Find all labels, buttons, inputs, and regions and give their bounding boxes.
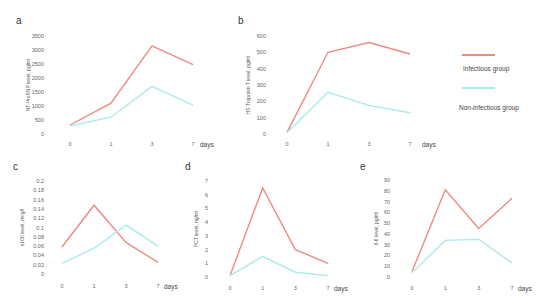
y-tick-label: 0.06 [33, 243, 44, 249]
y-tick-label: 50 [384, 220, 390, 226]
y-tick-label: 1500 [32, 89, 44, 95]
y-tick-label: 500 [257, 49, 266, 55]
x-tick-label: 0 [285, 141, 288, 147]
legend-swatch-non-infectious [462, 87, 495, 89]
infectious-series-line [70, 46, 193, 125]
y-axis-label: PCT level, ng/ml [193, 211, 199, 248]
infectious-series-line [287, 43, 410, 133]
x-tick-label: 3 [477, 285, 480, 291]
panel-letter-a: a [16, 15, 22, 26]
y-tick-label: 6 [205, 192, 208, 198]
y-tick-label: 2000 [32, 75, 44, 81]
x-tick-label: 7 [191, 141, 194, 147]
x-tick-label: 7 [156, 283, 159, 289]
y-tick-label: 0.2 [36, 178, 44, 184]
x-tick-label: 1 [326, 141, 329, 147]
panel-letter-e: e [360, 161, 366, 172]
y-tick-label: 0.18 [33, 187, 44, 193]
x-axis-label: days [200, 141, 214, 149]
y-tick-label: 200 [257, 98, 266, 104]
y-tick-label: 3000 [32, 47, 44, 53]
y-tick-label: 0.1 [36, 225, 44, 231]
y-tick-label: 0.12 [33, 215, 44, 221]
x-tick-label: 0 [228, 285, 231, 291]
non-infectious-series-line [412, 239, 512, 272]
x-tick-label: 3 [367, 141, 370, 147]
legend-label-infectious: Infectious group [463, 65, 509, 72]
y-tick-label: 5 [205, 205, 208, 211]
y-tick-label: 500 [35, 117, 44, 123]
y-tick-label: 0 [41, 131, 44, 137]
y-tick-label: 0.08 [33, 234, 44, 240]
y-tick-label: 0 [387, 274, 390, 280]
panel-letter-c: c [13, 161, 18, 172]
infectious-series-line [62, 205, 158, 262]
y-tick-label: 3500 [32, 33, 44, 39]
y-tick-label: 600 [257, 33, 266, 39]
x-tick-label: 7 [408, 141, 411, 147]
y-tick-label: 30 [384, 242, 390, 248]
x-axis-label: days [518, 285, 532, 293]
x-tick-label: 0 [68, 141, 71, 147]
legend-swatch-infectious [462, 54, 495, 56]
y-tick-label: 60 [384, 209, 390, 215]
y-tick-label: 1000 [32, 103, 44, 109]
x-tick-label: 0 [60, 283, 63, 289]
y-tick-label: 0 [205, 274, 208, 280]
panel-letter-d: d [185, 161, 191, 172]
non-infectious-series-line [230, 256, 328, 275]
y-tick-label: 1 [205, 260, 208, 266]
x-tick-label: 0 [410, 285, 413, 291]
x-tick-label: 3 [150, 141, 153, 147]
infectious-series-line [230, 188, 328, 276]
y-tick-label: 300 [257, 82, 266, 88]
non-infectious-series-line [70, 86, 193, 126]
y-tick-label: 2 [205, 247, 208, 253]
y-axis-label: NT-ProBNP level, pg/ml [25, 59, 31, 112]
panel-letter-b: b [238, 15, 244, 26]
y-tick-label: 2500 [32, 61, 44, 67]
x-axis-label: days [422, 141, 436, 149]
x-tick-label: 1 [92, 283, 95, 289]
y-tick-label: 40 [384, 231, 390, 237]
y-tick-label: 70 [384, 199, 390, 205]
y-tick-label: 0.14 [33, 206, 44, 212]
legend-label-non-infectious: Non-infectious group [459, 104, 519, 111]
y-tick-label: 20 [384, 252, 390, 258]
multi-panel-line-chart: a0500100015002000250030003500NT-ProBNP l… [0, 0, 546, 300]
x-tick-label: 1 [109, 141, 112, 147]
y-tick-label: 0.04 [33, 252, 44, 258]
y-tick-label: 100 [257, 115, 266, 121]
x-axis-label: days [164, 283, 178, 291]
y-tick-label: 90 [384, 177, 390, 183]
y-tick-label: 0 [41, 271, 44, 277]
y-tick-label: 0.02 [33, 262, 44, 268]
x-axis-label: days [334, 285, 348, 293]
non-infectious-series-line [62, 225, 158, 263]
infectious-series-line [412, 190, 512, 272]
y-axis-label: Il-6 level, pg/ml [373, 212, 379, 246]
y-tick-label: 80 [384, 188, 390, 194]
x-tick-label: 3 [294, 285, 297, 291]
y-tick-label: 7 [205, 178, 208, 184]
x-tick-label: 1 [261, 285, 264, 291]
y-tick-label: 0 [263, 131, 266, 137]
x-tick-label: 3 [124, 283, 127, 289]
y-tick-label: 3 [205, 233, 208, 239]
y-tick-label: 0.16 [33, 197, 44, 203]
x-tick-label: 7 [510, 285, 513, 291]
y-tick-label: 10 [384, 263, 390, 269]
x-tick-label: 1 [444, 285, 447, 291]
y-axis-label: s100 level, mcg/l [19, 209, 25, 246]
y-tick-label: 4 [205, 219, 208, 225]
y-axis-label: HS Troponin T level, pg/ml [245, 56, 251, 115]
non-infectious-series-line [287, 92, 410, 132]
x-tick-label: 7 [326, 285, 329, 291]
y-tick-label: 400 [257, 66, 266, 72]
